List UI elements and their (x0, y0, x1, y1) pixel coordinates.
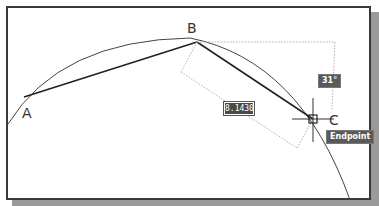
line-a-b (24, 42, 197, 97)
tracking-lines (181, 42, 335, 148)
dimension-input[interactable]: 8.1430 (223, 101, 255, 116)
angle-tooltip: 31° (318, 74, 341, 88)
dimension-value: 8.1430 (225, 103, 253, 114)
endpoint-osnap-tooltip: Endpoint (326, 130, 374, 144)
point-label-c: C (329, 112, 339, 128)
point-label-b: B (187, 20, 197, 36)
point-label-a: A (22, 105, 32, 121)
line-b-c (197, 42, 313, 119)
